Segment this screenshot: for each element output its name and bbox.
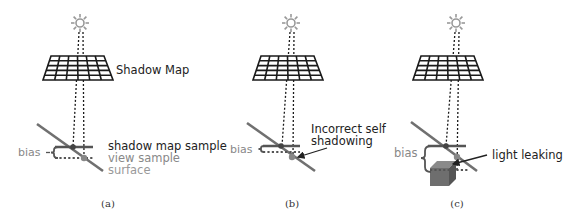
shadow-bias-figure: Shadow Map bias shadow map sample view s… bbox=[0, 0, 569, 217]
arrow-icon bbox=[298, 148, 327, 157]
shadow-sample-point bbox=[443, 143, 449, 149]
shadow-map-grid-icon bbox=[253, 56, 323, 80]
bias-label: bias bbox=[18, 146, 41, 159]
annotation-label: light leaking bbox=[492, 148, 563, 162]
light-rays bbox=[282, 32, 294, 157]
sun-icon bbox=[71, 14, 89, 32]
shadow-map-grid-icon bbox=[413, 56, 483, 80]
light-rays bbox=[73, 32, 84, 158]
bias-label: bias bbox=[230, 143, 253, 156]
bias-bracket bbox=[51, 147, 58, 158]
panel-c: bias light leaking (c) bbox=[394, 14, 563, 209]
view-sample-point bbox=[454, 154, 460, 160]
panel-b: bias Incorrect self shadowing (b) bbox=[230, 14, 387, 209]
view-sample-point bbox=[289, 154, 295, 160]
shadow-sample-point bbox=[278, 143, 284, 149]
view-sample-point bbox=[81, 155, 87, 161]
panel-a: Shadow Map bias shadow map sample view s… bbox=[18, 14, 227, 209]
bias-label: bias bbox=[394, 146, 418, 160]
caption-a: (a) bbox=[101, 198, 115, 209]
cube-icon bbox=[430, 161, 456, 186]
bias-bracket bbox=[259, 146, 265, 152]
shadow-sample-point bbox=[70, 144, 76, 150]
bias-bracket bbox=[421, 146, 431, 172]
annotation-line2: shadowing bbox=[311, 134, 373, 148]
sun-icon bbox=[282, 14, 300, 32]
caption-c: (c) bbox=[450, 198, 464, 209]
shadow-map-label: Shadow Map bbox=[116, 63, 189, 77]
shadow-map-grid-icon bbox=[43, 56, 113, 80]
surface-label: surface bbox=[108, 163, 151, 177]
caption-b: (b) bbox=[285, 198, 299, 209]
sun-icon bbox=[447, 14, 465, 32]
